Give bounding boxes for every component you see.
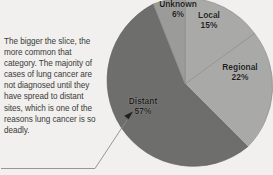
pie-label-distant-name: Distant bbox=[129, 96, 157, 106]
pie-label-regional-name: Regional bbox=[222, 62, 257, 72]
pie-chart-figure: The bigger the slice, the more common th… bbox=[0, 0, 273, 175]
pie-label-distant: Distant 57% bbox=[116, 96, 170, 117]
pie-label-local: Local 15% bbox=[186, 10, 232, 31]
pie-label-local-value: 15% bbox=[186, 20, 232, 30]
pie-label-unknown-name: Unknown bbox=[159, 0, 197, 9]
figure-caption: The bigger the slice, the more common th… bbox=[4, 36, 96, 136]
pie-label-local-name: Local bbox=[198, 10, 220, 20]
pie-label-distant-value: 57% bbox=[116, 106, 170, 116]
pie-label-regional-value: 22% bbox=[210, 72, 270, 82]
distant-leader-line bbox=[95, 120, 127, 169]
pie-label-regional: Regional 22% bbox=[210, 62, 270, 83]
